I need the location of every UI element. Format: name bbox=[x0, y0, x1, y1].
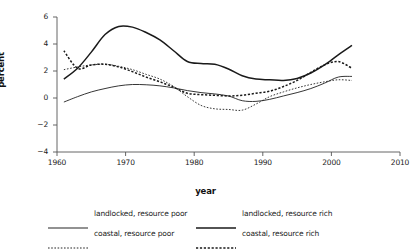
legend-label: landlocked, resource poor bbox=[94, 209, 187, 218]
legend-key-swatch bbox=[196, 215, 236, 218]
legend-key-swatch bbox=[196, 235, 236, 238]
chart-figure: percent year 6420−2−4 196019701980199020… bbox=[0, 0, 411, 250]
legend-key-swatch bbox=[48, 235, 88, 238]
legend-label: landlocked, resource rich bbox=[242, 209, 332, 218]
series-line-0 bbox=[64, 76, 352, 102]
series-lines bbox=[64, 26, 352, 111]
legend-label: coastal, resource rich bbox=[242, 229, 319, 238]
axis-lines bbox=[53, 17, 400, 156]
series-line-1 bbox=[64, 26, 352, 81]
legend-label: coastal, resource poor bbox=[94, 229, 174, 238]
legend-key-swatch bbox=[48, 215, 88, 218]
chart-legend: landlocked, resource poorlandlocked, res… bbox=[0, 206, 411, 248]
series-line-2 bbox=[64, 64, 352, 110]
